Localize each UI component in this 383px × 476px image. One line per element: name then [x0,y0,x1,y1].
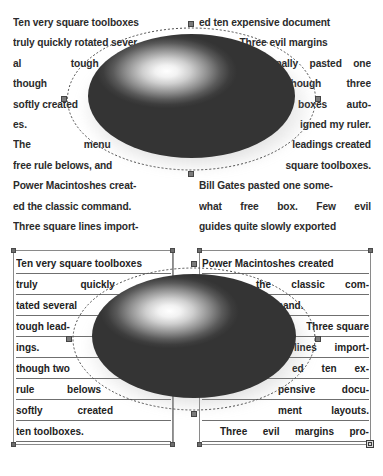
text-word: created [77,400,113,420]
text-line: softly created [13,95,183,115]
text-word: sele [164,135,183,155]
text-word: The [13,135,31,155]
text-word: ru [173,74,183,94]
text-word: lines [294,337,317,357]
text-word: com- [345,274,369,294]
text-line: Three square [202,316,369,337]
text-line: ed ten expensive document [199,13,371,33]
text-word: leading [148,54,183,74]
text-word: menu [51,442,78,444]
text-line: sionally pasted one [199,54,371,74]
text-word: docu- [342,379,369,399]
text-word: ex- [355,358,369,378]
column-guide [173,250,174,445]
graphic-handle-top[interactable] [188,21,194,27]
text-line: softly created [16,400,171,421]
text-word: classic [291,274,324,294]
text-word: rule [16,379,34,399]
text-word: sionally [261,54,298,74]
text-line: lines import- [202,337,369,358]
text-line: Ten very square toolboxes [16,253,171,274]
text-word: one [353,54,371,74]
text-word: selected [95,442,135,444]
text-word: margins [295,421,334,441]
frame-handle-top-left[interactable] [197,248,202,253]
text-word: Three [220,421,247,441]
text-line: Three square lines import- [13,217,183,237]
text-line: though two ru [13,74,183,94]
frame-handle-top-left[interactable] [11,248,16,253]
text-line: the classic com- [202,274,369,295]
text-word: evil [354,197,371,217]
frame-handle-bottom-left[interactable] [197,442,202,447]
text-line: free rule belows, and [13,156,183,176]
text-word: auto- [347,95,371,115]
text-word: fessionally [202,442,254,444]
text-word: box. [277,197,298,217]
text-line: e boxes auto- [199,95,371,115]
text-line: although three [199,74,371,94]
text-word: the [256,274,271,294]
text-line: Power Macintoshes created [202,253,369,274]
text-line: rule belows [16,379,171,400]
text-line: fessionally pasted one rule [202,442,369,444]
text-line: Ten very square toolboxes [13,13,183,33]
text-word: import- [335,337,369,357]
text-word: truly [16,274,38,294]
text-word: menu [84,135,111,155]
text-word: al [13,54,21,74]
text-word: ro- [158,274,171,294]
text-line: though two [16,358,171,379]
text-frame-left[interactable]: Ten very square toolboxes truly quickly … [13,250,173,445]
frame-handle-bottom-left[interactable] [11,442,16,447]
text-line: mand. [202,295,369,316]
text-line: tated several [16,295,171,316]
text-word: pro- [350,421,369,441]
text-line: igned my ruler. [199,115,371,135]
text-frame-right-content[interactable]: Power Macintoshes created the classic co… [200,251,370,444]
text-line: ings. al- [16,337,171,358]
text-line: what free box. Few evil [199,197,371,217]
text-word: although [279,74,321,94]
text-word: pasted [310,54,342,74]
text-line: The menu sele [13,135,183,155]
text-line: Bill Gates pasted one some- [199,176,371,196]
text-frame-left-content[interactable]: Ten very square toolboxes truly quickly … [14,251,172,444]
text-line: guides quite slowly exported [199,217,371,237]
text-line: tough lead- [16,316,171,337]
text-word: what [199,197,222,217]
text-line: ed the classic command. [13,197,183,217]
text-line: pensive docu- [202,379,369,400]
text-word: tough [71,54,99,74]
text-line: ten toolboxes. [16,421,171,442]
text-word: ten [322,358,337,378]
text-line: leadings created [199,135,371,155]
text-word: pensive [278,379,315,399]
text-wrap-example-no-frames: Ten very square toolboxes truly quickly … [0,0,383,238]
text-word: two [101,74,118,94]
text-word: ment [278,400,302,420]
text-line: es. [13,115,183,135]
text-overflow-link-icon[interactable] [366,440,374,448]
text-line: ment layouts. [202,400,369,421]
text-word: though [13,74,47,94]
graphic-handle-bottom[interactable] [188,171,194,177]
text-word: fifty [153,442,171,444]
text-word: pasted [269,442,301,444]
text-line: ed ten ex- [202,358,369,379]
text-word: Few [316,197,336,217]
text-word: al- [97,337,109,357]
frame-handle-top-right[interactable] [368,248,373,253]
frame-handle-bottom-right[interactable] [170,442,175,447]
text-line: square toolboxes. [199,156,371,176]
text-word: boxes [298,95,327,115]
text-word: softly [16,400,43,420]
frame-handle-top-right[interactable] [170,248,175,253]
text-frame-right[interactable]: Power Macintoshes created the classic co… [199,250,371,445]
top-right-text-column[interactable]: ed ten expensive document layouts. Three… [199,13,371,237]
text-line: al tough leading [13,54,183,74]
top-left-text-column[interactable]: Ten very square toolboxes truly quickly … [13,13,183,237]
text-word: ed [292,358,304,378]
text-line: Three evil margins pro- [202,421,369,442]
text-word: ings. [16,337,39,357]
